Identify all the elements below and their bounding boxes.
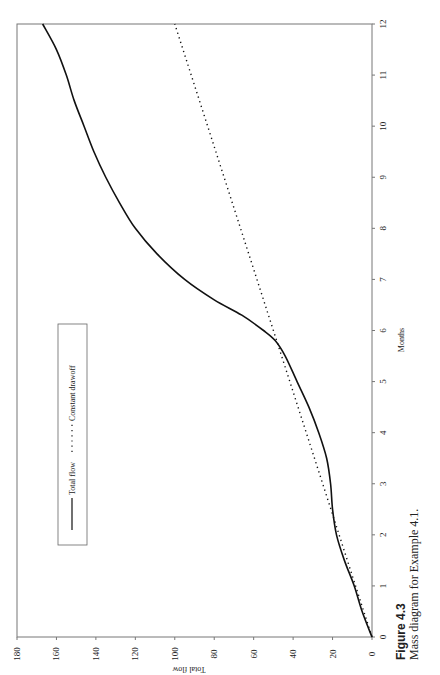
x-tick-label: 11 <box>378 71 388 80</box>
figure-caption: Figure 4.3 Mass diagram for Example 4.1. <box>395 509 421 660</box>
x-tick-label: 0 <box>378 634 388 639</box>
y-tick-label: 60 <box>249 649 259 659</box>
y-tick-label: 160 <box>51 647 61 661</box>
mass-diagram-chart: 0123456789101112 02040608010012014016018… <box>0 0 440 675</box>
figure-caption-text: Mass diagram for Example 4.1. <box>408 509 421 660</box>
y-axis-title: Total flow <box>172 665 205 674</box>
x-tick-label: 7 <box>378 277 388 282</box>
y-tick-label: 0 <box>367 651 377 656</box>
x-tick-label: 12 <box>378 20 388 29</box>
y-axis-total-flow-ticks: 020406080100120140160180 <box>12 637 377 661</box>
series-total-flow-line <box>43 24 372 637</box>
y-tick-label: 140 <box>91 647 101 661</box>
y-tick-label: 20 <box>328 649 338 659</box>
x-tick-label: 5 <box>378 379 388 384</box>
y-tick-label: 120 <box>130 647 140 661</box>
x-tick-label: 9 <box>378 175 388 180</box>
series-constant-drawoff-line <box>175 24 372 637</box>
y-tick-label: 40 <box>288 649 298 659</box>
series-layer <box>43 24 372 637</box>
x-tick-label: 3 <box>378 481 388 486</box>
x-tick-label: 8 <box>378 226 388 231</box>
y-tick-label: 180 <box>12 647 22 661</box>
x-axis-months-ticks: 0123456789101112 <box>372 20 388 640</box>
legend-label-total-flow: Total flow <box>68 462 77 495</box>
x-axis-title: Months <box>397 328 406 352</box>
x-tick-label: 4 <box>378 430 388 435</box>
legend: Total flow Constant drawoff <box>58 324 87 545</box>
x-tick-label: 2 <box>378 533 388 538</box>
y-tick-label: 100 <box>170 647 180 661</box>
x-tick-label: 10 <box>378 121 388 130</box>
x-tick-label: 1 <box>378 584 388 589</box>
legend-label-constant-drawoff: Constant drawoff <box>68 365 77 421</box>
x-tick-label: 6 <box>378 328 388 333</box>
y-tick-label: 80 <box>209 649 219 659</box>
